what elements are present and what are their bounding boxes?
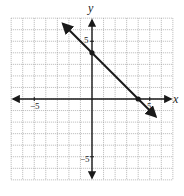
coordinate-plane (0, 0, 184, 196)
data-line (63, 24, 155, 116)
x-tick-label-neg5: −5 (30, 102, 40, 111)
intercept-point (89, 50, 94, 55)
intercept-point (136, 96, 141, 101)
x-axis-label: x (173, 93, 178, 105)
x-tick-label-pos5: 5 (147, 102, 152, 111)
y-axis-label: y (88, 2, 93, 14)
axes (13, 20, 171, 178)
y-tick-label-neg5: −5 (80, 155, 90, 164)
line-y-equals-neg-x-plus-4 (63, 24, 155, 116)
y-tick-label-pos5: 5 (84, 36, 89, 45)
